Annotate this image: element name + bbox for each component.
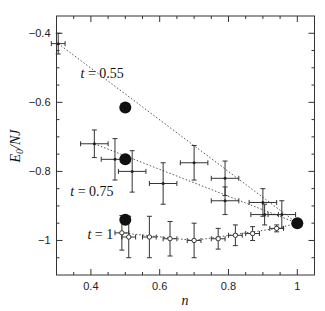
data-point — [211, 228, 225, 249]
data-point — [187, 223, 201, 258]
data-point — [81, 130, 109, 158]
point-marker — [261, 201, 264, 204]
point-marker — [113, 158, 116, 161]
x-tick-label: 0.4 — [83, 280, 98, 292]
y-tick-label: −0.8 — [29, 165, 51, 177]
point-marker — [263, 213, 266, 216]
point-marker — [224, 199, 227, 202]
data-point — [143, 216, 157, 257]
data-point — [180, 146, 208, 181]
point-marker — [57, 42, 60, 45]
point-marker — [224, 177, 227, 180]
point-marker — [250, 231, 254, 235]
point-marker — [192, 238, 196, 242]
x-axis-label: n — [182, 293, 189, 308]
series-label: t = 0.55 — [81, 66, 124, 81]
point-marker — [274, 226, 278, 230]
point-marker — [127, 235, 131, 239]
point-marker — [216, 237, 220, 241]
axis-ticks: 0.40.60.81−0.4−0.6−0.8−1 — [29, 16, 315, 292]
data-point — [229, 225, 243, 246]
x-tick-label: 0.8 — [221, 280, 236, 292]
reference-point — [119, 102, 131, 114]
point-marker — [193, 161, 196, 164]
data-point — [246, 227, 260, 241]
reference-point — [119, 214, 131, 226]
series-labels: t = 0.55t = 0.75t = 1 — [70, 66, 124, 242]
reference-point — [119, 153, 131, 165]
point-marker — [168, 237, 172, 241]
series-label: t = 1 — [87, 227, 113, 242]
point-marker — [147, 235, 151, 239]
data-point — [249, 189, 277, 217]
data-point — [251, 204, 279, 225]
y-tick-label: −0.6 — [29, 96, 51, 108]
x-tick-label: 1 — [294, 280, 300, 292]
point-marker — [280, 213, 283, 216]
reference-point — [291, 217, 303, 229]
chart: 0.40.60.81−0.4−0.6−0.8−1 n E0/NJ t = 0.5… — [0, 0, 325, 311]
y-axis-label: E0/NJ — [8, 129, 25, 164]
x-tick-label: 0.6 — [152, 280, 167, 292]
point-marker — [93, 142, 96, 145]
data-point — [149, 163, 177, 204]
point-marker — [162, 182, 165, 185]
y-tick-label: −0.4 — [29, 27, 51, 39]
data-point — [163, 221, 177, 256]
point-marker — [120, 231, 124, 235]
point-marker — [233, 233, 237, 237]
series-label: t = 0.75 — [70, 184, 113, 199]
reference-points — [119, 102, 303, 230]
svg-text:E0/NJ: E0/NJ — [8, 129, 25, 164]
y-tick-label: −1 — [38, 234, 51, 246]
point-marker — [131, 170, 134, 173]
